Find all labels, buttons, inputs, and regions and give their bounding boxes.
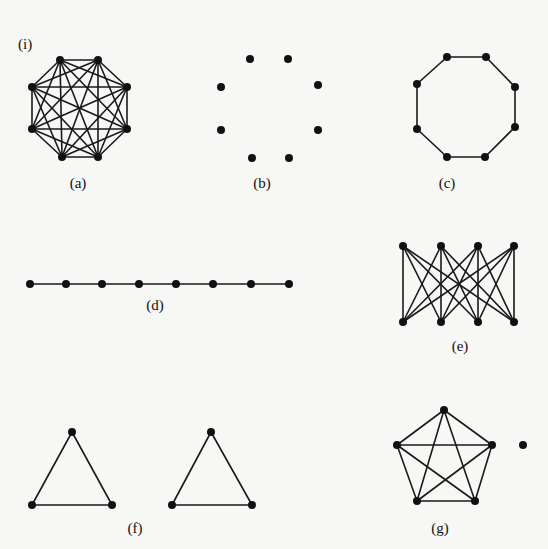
vertex (443, 53, 451, 61)
vertex (108, 501, 116, 509)
vertex (314, 81, 322, 89)
edge (485, 127, 515, 157)
vertex (28, 125, 36, 133)
vertex (413, 125, 421, 133)
vertex (510, 242, 518, 250)
edge (32, 60, 98, 129)
graph-label-d: (d) (146, 297, 164, 314)
edge (98, 60, 127, 87)
vertex (98, 280, 106, 288)
vertex (172, 280, 180, 288)
edge (475, 445, 492, 501)
vertex (413, 497, 421, 505)
vertex (123, 125, 131, 133)
graph-figure: (i) (a) (b) (c) (d) (e) (f) (g) (0, 0, 548, 549)
edge (72, 432, 112, 505)
edge (397, 445, 417, 501)
graph-g-k5-plus-isolated: (g) (393, 406, 527, 537)
edge (32, 129, 62, 157)
vertex (314, 126, 322, 134)
vertex (209, 280, 217, 288)
vertex (26, 280, 34, 288)
vertex (474, 242, 482, 250)
graph-e-bipartite: (e) (399, 242, 518, 355)
vertex (474, 318, 482, 326)
edge (444, 410, 492, 445)
graph-label-c: (c) (439, 175, 456, 192)
vertex (511, 123, 519, 131)
graph-b-empty: (b) (217, 55, 322, 192)
edge (172, 432, 211, 505)
vertex (246, 55, 254, 63)
edge (417, 445, 492, 501)
vertex (94, 153, 102, 161)
vertex (62, 280, 70, 288)
graph-a-complete-k8: (a) (28, 56, 131, 192)
edge (211, 432, 252, 505)
vertex (399, 242, 407, 250)
graph-c-cycle: (c) (413, 53, 519, 192)
vertex (481, 153, 489, 161)
vertex (68, 428, 76, 436)
vertex (437, 318, 445, 326)
vertex (284, 55, 292, 63)
edge (32, 60, 60, 87)
vertex (437, 242, 445, 250)
graph-label-a: (a) (70, 175, 87, 192)
graph-label-e: (e) (452, 338, 469, 355)
edge (417, 57, 447, 84)
edge (486, 57, 515, 87)
graph-label-g: (g) (431, 520, 449, 537)
vertex (247, 280, 255, 288)
vertex (207, 428, 215, 436)
graph-label-f: (f) (128, 520, 143, 537)
vertex (482, 53, 490, 61)
vertex (443, 153, 451, 161)
vertex (28, 501, 36, 509)
vertex (123, 83, 131, 91)
vertex (413, 80, 421, 88)
vertex (58, 153, 66, 161)
vertex (519, 441, 527, 449)
vertex (285, 154, 293, 162)
vertex (248, 501, 256, 509)
vertex (471, 497, 479, 505)
vertex (217, 83, 225, 91)
vertex (168, 501, 176, 509)
vertex (511, 83, 519, 91)
vertex (135, 280, 143, 288)
edge (417, 410, 444, 501)
edge (417, 129, 447, 157)
panel-marker-label: (i) (18, 36, 32, 53)
edge (32, 87, 98, 157)
vertex (56, 56, 64, 64)
graph-d-path: (d) (26, 280, 293, 314)
edge (98, 129, 127, 157)
vertex (440, 406, 448, 414)
vertex (510, 318, 518, 326)
vertex (399, 318, 407, 326)
vertex (217, 126, 225, 134)
vertex (488, 441, 496, 449)
vertex (94, 56, 102, 64)
edge (444, 410, 475, 501)
vertex (28, 83, 36, 91)
vertex (285, 280, 293, 288)
vertex (248, 154, 256, 162)
graph-label-b: (b) (253, 175, 271, 192)
vertex (393, 441, 401, 449)
edge (397, 410, 444, 445)
edge (32, 432, 72, 505)
edge (397, 445, 475, 501)
graph-f-two-triangles: (f) (28, 428, 256, 537)
